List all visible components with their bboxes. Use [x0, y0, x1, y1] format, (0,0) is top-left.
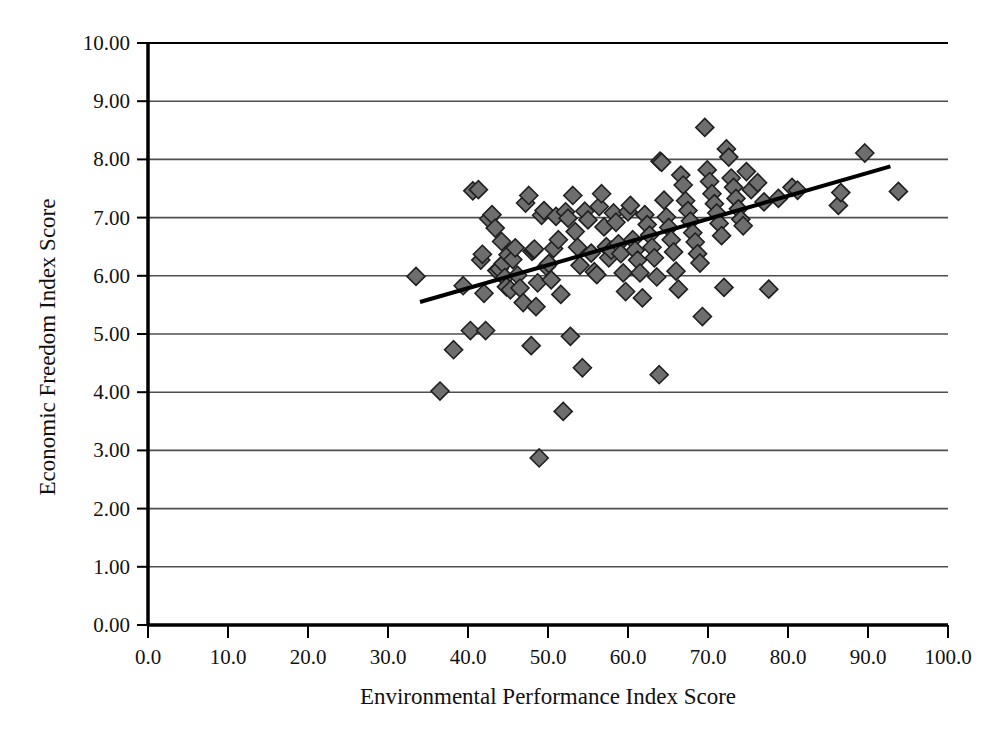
x-axis-title: Environmental Performance Index Score — [148, 684, 948, 710]
scatter-point — [650, 366, 668, 384]
gridlines-group — [148, 43, 948, 625]
scatter-point — [445, 341, 463, 359]
y-tick-label-7: 7.00 — [0, 207, 130, 228]
x-tick-label-50: 50.0 — [530, 647, 567, 668]
scatter-chart-figure: Figure: Environmental Performance vs Eco… — [0, 0, 1002, 730]
scatter-point — [715, 278, 733, 296]
scatter-point — [477, 322, 495, 340]
scatter-point — [573, 359, 591, 377]
scatter-point — [554, 402, 572, 420]
scatter-point — [564, 186, 582, 204]
scatter-point — [530, 449, 548, 467]
scatter-point — [552, 285, 570, 303]
x-tick-label-60: 60.0 — [610, 647, 647, 668]
x-tick-marks-group — [148, 625, 948, 638]
y-tick-label-0: 0.00 — [0, 615, 130, 636]
y-tick-label-3: 3.00 — [0, 440, 130, 461]
scatter-point — [832, 184, 850, 202]
scatter-point — [561, 327, 579, 345]
y-axis-title: Economic Freedom Index Score — [35, 37, 61, 657]
scatter-points-group — [407, 118, 907, 467]
scatter-point — [669, 280, 687, 298]
scatter-point — [522, 337, 540, 355]
scatter-point — [696, 118, 714, 136]
scatter-point — [760, 280, 778, 298]
x-tick-label-100: 100.0 — [924, 647, 971, 668]
x-tick-label-30: 30.0 — [370, 647, 407, 668]
scatter-point — [633, 289, 651, 307]
x-tick-label-40: 40.0 — [450, 647, 487, 668]
y-tick-label-8: 8.00 — [0, 149, 130, 170]
scatter-point — [648, 268, 666, 286]
y-tick-label-2: 2.00 — [0, 498, 130, 519]
y-tick-label-1: 1.00 — [0, 556, 130, 577]
chart-canvas — [0, 0, 1002, 730]
scatter-point — [631, 264, 649, 282]
y-tick-label-4: 4.00 — [0, 382, 130, 403]
y-tick-label-5: 5.00 — [0, 324, 130, 345]
y-tick-label-9: 9.00 — [0, 91, 130, 112]
scatter-point — [693, 308, 711, 326]
scatter-point — [667, 262, 685, 280]
scatter-point — [889, 182, 907, 200]
x-tick-label-70: 70.0 — [690, 647, 727, 668]
y-tick-label-10: 10.00 — [0, 33, 130, 54]
scatter-point — [655, 191, 673, 209]
scatter-point — [593, 185, 611, 203]
x-tick-label-10: 10.0 — [210, 647, 247, 668]
scatter-point — [617, 283, 635, 301]
x-tick-label-80: 80.0 — [770, 647, 807, 668]
x-tick-label-20: 20.0 — [290, 647, 327, 668]
scatter-point — [614, 264, 632, 282]
y-tick-label-6: 6.00 — [0, 265, 130, 286]
x-tick-label-0: 0.0 — [135, 647, 161, 668]
scatter-point — [431, 382, 449, 400]
scatter-point — [407, 267, 425, 285]
x-tick-label-90: 90.0 — [850, 647, 887, 668]
